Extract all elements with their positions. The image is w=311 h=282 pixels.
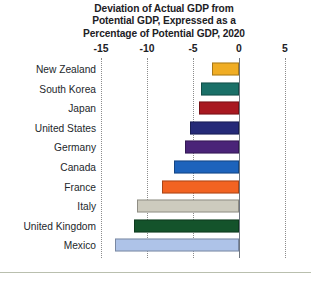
category-label: New Zealand bbox=[36, 64, 96, 75]
chart-figure: Deviation of Actual GDP from Potential G… bbox=[0, 0, 311, 282]
category-label: Germany bbox=[54, 142, 96, 153]
category-label: Italy bbox=[77, 201, 96, 212]
chart-row: France bbox=[0, 177, 311, 197]
chart-title: Deviation of Actual GDP from Potential G… bbox=[28, 3, 300, 40]
bar bbox=[115, 239, 239, 252]
x-tick-label: 0 bbox=[236, 43, 242, 54]
plot-area: New ZealandSouth KoreaJapanUnited States… bbox=[0, 58, 311, 258]
bar bbox=[201, 82, 239, 95]
chart-row: Italy bbox=[0, 196, 311, 216]
bar bbox=[137, 200, 239, 213]
category-label: United Kingdom bbox=[24, 220, 97, 231]
chart-title-line-1: Deviation of Actual GDP from bbox=[28, 3, 300, 15]
chart-row: United Kingdom bbox=[0, 216, 311, 236]
category-label: United States bbox=[35, 122, 96, 133]
category-label: Canada bbox=[60, 162, 96, 173]
bar bbox=[174, 161, 239, 174]
category-label: Japan bbox=[68, 103, 96, 114]
x-axis-tick-labels: -15-10-505 bbox=[0, 43, 311, 57]
bar bbox=[199, 102, 239, 115]
page-footer-area bbox=[0, 273, 311, 282]
bar bbox=[162, 180, 239, 193]
bar bbox=[190, 121, 239, 134]
chart-row: New Zealand bbox=[0, 59, 311, 79]
x-tick-label: -10 bbox=[139, 43, 154, 54]
chart-row: Canada bbox=[0, 157, 311, 177]
category-label: South Korea bbox=[39, 83, 96, 94]
chart-row: South Korea bbox=[0, 79, 311, 99]
chart-title-line-2: Potential GDP, Expressed as a bbox=[28, 15, 300, 27]
bar bbox=[212, 63, 239, 76]
x-tick-label: 5 bbox=[282, 43, 288, 54]
chart-row: Japan bbox=[0, 98, 311, 118]
chart-row: United States bbox=[0, 118, 311, 138]
x-tick-label: -15 bbox=[93, 43, 108, 54]
chart-row: Germany bbox=[0, 137, 311, 157]
bar bbox=[185, 141, 239, 154]
chart-title-line-3: Percentage of Potential GDP, 2020 bbox=[28, 28, 300, 40]
category-label: Mexico bbox=[64, 240, 96, 251]
x-tick-label: -5 bbox=[188, 43, 197, 54]
bar bbox=[134, 219, 239, 232]
category-label: France bbox=[64, 181, 96, 192]
chart-row: Mexico bbox=[0, 235, 311, 255]
